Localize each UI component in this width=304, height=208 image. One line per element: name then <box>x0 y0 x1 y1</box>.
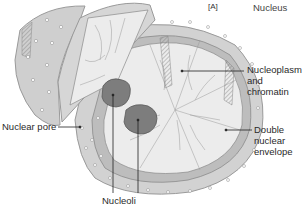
label-line: nuclear <box>254 135 293 146</box>
label-nuclear-pore: Nuclear pore <box>2 121 56 132</box>
label-nucleoplasm: Nucleoplasm and chromatin <box>247 64 302 97</box>
label-line: chromatin <box>247 86 302 97</box>
label-nucleoli: Nucleoli <box>102 195 136 206</box>
label-line: envelope <box>254 146 293 157</box>
label-double-nuclear-envelope: Double nuclear envelope <box>254 124 293 157</box>
label-line: Nucleoplasm <box>247 64 302 75</box>
label-line: Double <box>254 124 293 135</box>
panel-tag: [A] <box>208 2 218 11</box>
nucleus-diagram: [A] Nucleus Nucleoplasm and chromatin Do… <box>0 0 304 208</box>
figure-title: Nucleus <box>253 2 287 13</box>
label-line: and <box>247 75 302 86</box>
nucleus-illustration <box>0 0 304 208</box>
